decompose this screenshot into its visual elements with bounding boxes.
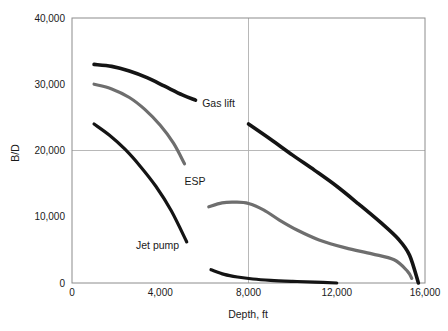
series-label-gas-lift: Gas lift <box>202 97 235 109</box>
y-tick-label-10000: 10,000 <box>34 211 65 222</box>
x-tick-label-8000: 8,000 <box>236 287 261 298</box>
series-label-jet-pump: Jet pump <box>136 239 179 251</box>
x-axis-title: Depth, ft <box>228 308 268 320</box>
x-tick-label-4000: 4,000 <box>148 287 173 298</box>
chart-background <box>0 0 448 331</box>
x-tick-label-0: 0 <box>69 287 75 298</box>
chart-container: 04,0008,00012,00016,000 010,00020,00030,… <box>0 0 448 331</box>
y-tick-label-40000: 40,000 <box>34 13 65 24</box>
y-tick-label-0: 0 <box>59 278 65 289</box>
series-label-esp: ESP <box>185 175 206 187</box>
y-tick-label-30000: 30,000 <box>34 79 65 90</box>
x-tick-label-16000: 16,000 <box>410 287 441 298</box>
lift-method-capacity-chart: 04,0008,00012,00016,000 010,00020,00030,… <box>0 0 448 331</box>
y-axis-title: B/D <box>9 144 21 162</box>
y-tick-label-20000: 20,000 <box>34 145 65 156</box>
x-tick-label-12000: 12,000 <box>321 287 352 298</box>
